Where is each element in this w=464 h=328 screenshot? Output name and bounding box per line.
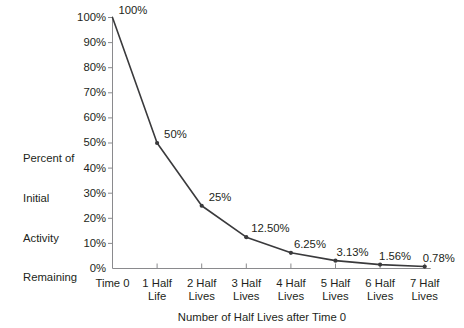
y-axis-tick-marks bbox=[108, 18, 113, 244]
data-point-marker bbox=[378, 262, 382, 266]
data-point-marker bbox=[289, 251, 293, 255]
data-point-marker bbox=[155, 141, 159, 145]
data-point-marker bbox=[423, 264, 427, 268]
data-point-marker bbox=[333, 259, 337, 263]
plot-area bbox=[0, 0, 464, 328]
axis-lines bbox=[113, 17, 431, 269]
data-point-markers bbox=[155, 141, 427, 269]
data-point-marker bbox=[200, 204, 204, 208]
half-life-decay-chart: Percent of Initial Activity Remaining Nu… bbox=[0, 0, 464, 328]
decay-curve bbox=[113, 18, 425, 267]
data-point-marker bbox=[244, 235, 248, 239]
